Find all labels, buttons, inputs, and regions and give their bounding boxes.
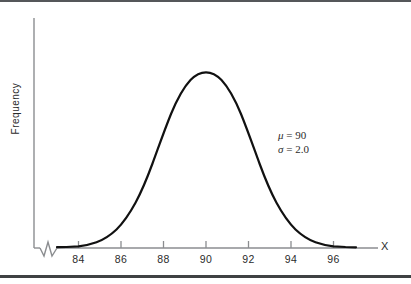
mu-equals: = [284, 129, 296, 141]
page-top-rule [0, 0, 411, 2]
y-axis-title: Frequency [10, 74, 21, 144]
x-axis-ticks [79, 241, 334, 248]
plot-area [0, 3, 411, 273]
axis-break-zigzag-icon [40, 242, 57, 256]
sigma-annotation-line: σ = 2.0 [278, 142, 309, 156]
x-axis-title: X [381, 240, 388, 252]
x-tick-label-84: 84 [66, 253, 92, 265]
mu-annotation-line: μ = 90 [278, 128, 309, 142]
figure-page: Frequency X 84 86 88 90 92 94 96 μ = 90 … [0, 0, 411, 284]
page-bottom-rule [0, 275, 411, 278]
sigma-value: 2.0 [295, 143, 309, 155]
distribution-parameters-annotation: μ = 90 σ = 2.0 [278, 128, 309, 156]
x-tick-label-86: 86 [108, 253, 134, 265]
x-tick-label-90: 90 [193, 253, 219, 265]
x-tick-label-96: 96 [321, 253, 347, 265]
sigma-equals: = [283, 143, 295, 155]
x-tick-label-88: 88 [151, 253, 177, 265]
normal-distribution-curve [57, 72, 356, 247]
x-tick-label-92: 92 [236, 253, 262, 265]
normal-distribution-chart: Frequency X 84 86 88 90 92 94 96 μ = 90 … [0, 3, 411, 273]
mu-value: 90 [295, 129, 306, 141]
x-tick-label-94: 94 [278, 253, 304, 265]
